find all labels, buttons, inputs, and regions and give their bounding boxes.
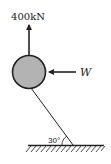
- ground-hatching: [26, 146, 105, 152]
- horizontal-force-label: W: [80, 66, 93, 79]
- ball: [13, 56, 46, 89]
- angle-label: 30°: [48, 136, 60, 145]
- angle-arc: [62, 136, 67, 145]
- upward-force-label: 400kN: [11, 11, 45, 22]
- free-body-diagram: 400kN W 30°: [0, 0, 111, 164]
